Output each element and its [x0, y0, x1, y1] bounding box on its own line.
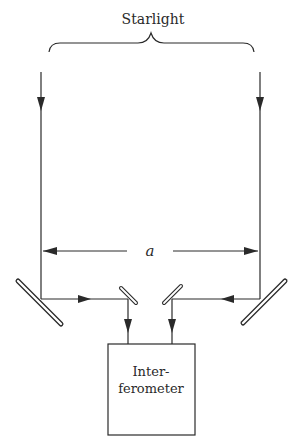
stellar-interferometer-diagram: Starlight a	[0, 0, 303, 448]
down-arrow-icon	[168, 319, 176, 333]
left-horizontal-beam	[41, 295, 128, 303]
baseline-label: a	[146, 242, 155, 260]
right-horizontal-beam	[172, 295, 260, 303]
down-arrow-icon	[256, 97, 264, 111]
box-label-line2: ferometer	[118, 381, 184, 396]
interferometer-box: Inter- ferometer	[108, 344, 195, 435]
left-arrow-icon	[221, 295, 234, 303]
left-beam	[37, 72, 45, 299]
right-arrow-icon	[244, 247, 258, 255]
brace-icon	[49, 33, 254, 52]
right-outer-mirror	[243, 281, 285, 323]
baseline-dimension: a	[43, 242, 258, 260]
down-arrow-icon	[37, 97, 45, 111]
right-beam	[256, 72, 264, 299]
right-arrow-icon	[78, 295, 91, 303]
down-arrow-icon	[124, 319, 132, 333]
left-arrow-icon	[43, 247, 57, 255]
starlight-label: Starlight	[122, 11, 185, 27]
right-down-beam	[168, 299, 176, 344]
box-label-line1: Inter-	[132, 364, 169, 379]
left-down-beam	[124, 299, 132, 344]
left-outer-mirror	[18, 281, 61, 324]
